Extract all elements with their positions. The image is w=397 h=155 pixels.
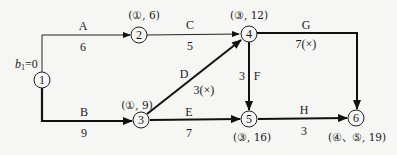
network-diagram: A 6 B 9 C 5 D 3(×) E 7 3 F G 7(×) H [0,0,397,155]
edge-f: 3 F [239,42,261,110]
node-4: 4 (③, 12) [230,9,268,42]
edge-a: A 6 [42,19,130,72]
edge-e-weight: 7 [186,126,192,140]
edge-e: E 7 [150,105,240,140]
edge-b-name: B [80,105,88,119]
start-label: b1=0 [15,57,38,72]
edge-a-weight: 6 [80,40,86,54]
node-2: 2 (①, 6) [128,9,160,43]
node-5: 5 (③, 16) [233,111,271,143]
edge-d-name: D [180,67,189,81]
edge-f-name: F [254,69,261,83]
svg-text:3: 3 [138,113,144,127]
edge-e-name: E [185,105,192,119]
edge-d: D 3(×) [147,40,241,114]
svg-text:5: 5 [246,112,252,126]
edge-g-name: G [302,18,311,32]
edge-g: G 7(×) [257,18,357,109]
edge-h-name: H [300,103,309,117]
node-6: 6 (④、⑤, 19) [328,110,386,143]
node-6-annotation: (④、⑤, 19) [328,131,386,143]
edge-c: C 5 [147,18,239,53]
edge-a-name: A [79,19,88,33]
edge-h-weight: 3 [301,124,307,138]
svg-text:1: 1 [39,73,45,87]
svg-text:4: 4 [246,27,252,41]
node-5-annotation: (③, 16) [233,131,271,143]
node-3-annotation: (①, 9) [121,99,153,111]
svg-text:6: 6 [353,111,359,125]
node-4-annotation: (③, 12) [230,9,268,21]
svg-text:2: 2 [136,28,142,42]
edge-c-name: C [186,18,194,32]
edge-f-weight: 3 [239,69,245,83]
edge-d-weight: 3(×) [194,83,215,97]
edge-g-weight: 7(×) [296,37,317,51]
edge-b-weight: 9 [81,126,87,140]
edge-b: B 9 [42,88,132,140]
node-1: 1 [34,72,50,88]
edge-c-weight: 5 [187,39,193,53]
node-2-annotation: (①, 6) [128,9,160,21]
